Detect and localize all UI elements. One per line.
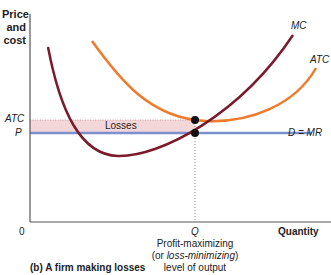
y-axis-label-line3: cost	[2, 34, 26, 47]
q-annotation: Profit-maximizing (or loss-minimizing) l…	[145, 238, 245, 274]
atc-curve-label: ATC	[310, 54, 329, 65]
y-axis-label-line1: Price	[2, 8, 26, 21]
origin-label: 0	[19, 226, 25, 237]
q-annotation-line2: (or loss-minimizing)	[145, 250, 245, 262]
q-label: Q	[191, 226, 199, 237]
p-axis-label: P	[15, 127, 22, 138]
atc-curve	[92, 41, 316, 121]
y-axis-label: Price and cost	[2, 8, 26, 47]
q-annotation-pre: (or	[152, 250, 167, 261]
demand-mr-label: D = MR	[288, 127, 322, 138]
x-axis-label: Quantity	[278, 226, 319, 237]
q-annotation-line1: Profit-maximizing	[145, 238, 245, 250]
mr-mc-point	[191, 129, 199, 137]
y-axis-label-line2: and	[2, 21, 26, 34]
mc-label: MC	[291, 20, 307, 31]
mc-curve	[48, 35, 293, 156]
atc-point	[191, 116, 199, 124]
q-annotation-post: )	[235, 250, 238, 261]
atc-axis-label: ATC	[5, 113, 24, 124]
chart-caption: (b) A firm making losses	[30, 262, 145, 273]
losses-label: Losses	[105, 120, 137, 131]
q-annotation-line3: level of output	[145, 262, 245, 274]
q-annotation-italic: loss-minimizing	[167, 250, 235, 261]
